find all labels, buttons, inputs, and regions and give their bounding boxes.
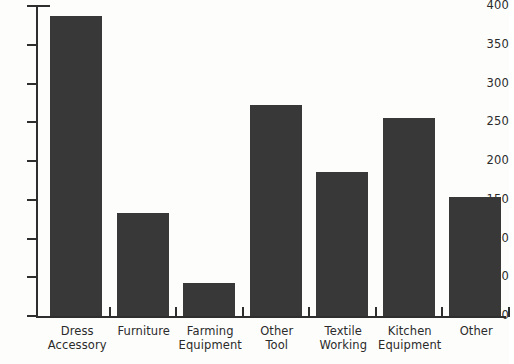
- category-label-line-2: Accessory: [38, 338, 117, 352]
- bar: [316, 172, 368, 316]
- y-axis-tick: [27, 160, 38, 162]
- bar: [183, 283, 235, 316]
- y-axis-tick: [27, 5, 38, 7]
- category-label-line-1: Farming: [187, 324, 234, 338]
- y-axis-tick: [27, 199, 38, 201]
- x-axis-category-label: Other: [437, 324, 514, 338]
- category-label-line-1: Dress: [61, 324, 94, 338]
- category-label-line-1: Textile: [325, 324, 362, 338]
- plot-area: [44, 6, 506, 316]
- bar: [250, 105, 302, 316]
- bar: [383, 118, 435, 316]
- category-label-line-1: Other: [260, 324, 293, 338]
- y-axis-tick: [27, 276, 38, 278]
- y-axis-tick: [27, 44, 38, 46]
- y-axis-tick: [27, 238, 38, 240]
- category-label-line-1: Kitchen: [388, 324, 432, 338]
- bar: [117, 213, 169, 316]
- category-label-line-2: Equipment: [371, 338, 450, 352]
- y-axis-tick: [27, 83, 38, 85]
- y-axis-tick: [27, 121, 38, 123]
- bar: [449, 197, 501, 316]
- category-label-line-1: Other: [460, 324, 493, 338]
- x-axis-line: [36, 316, 506, 318]
- category-label-line-1: Furniture: [117, 324, 170, 338]
- bar: [50, 16, 102, 316]
- x-axis-tick: [508, 307, 510, 317]
